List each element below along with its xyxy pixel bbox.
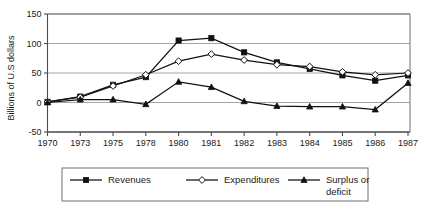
x-tick-label: 1987 bbox=[398, 138, 418, 148]
series-0-point-4-marker-square bbox=[176, 38, 181, 43]
x-tick-label: 1982 bbox=[234, 138, 254, 148]
x-tick-label: 1975 bbox=[103, 138, 123, 148]
y-axis-title: Billions of U.S dollars bbox=[6, 35, 16, 121]
y-tick-label: -50 bbox=[28, 127, 41, 137]
legend-label: Surplus or bbox=[326, 174, 369, 185]
y-tick-label: 100 bbox=[26, 39, 41, 49]
legend-label: Revenues bbox=[108, 174, 151, 185]
x-tick-label: 1981 bbox=[201, 138, 221, 148]
x-tick-label: 1983 bbox=[267, 138, 287, 148]
x-tick-label: 1970 bbox=[37, 138, 57, 148]
legend-label: Expenditures bbox=[224, 174, 280, 185]
x-tick-label: 1985 bbox=[332, 138, 352, 148]
chart-container: Billions of U.S dollars -50050100150 197… bbox=[0, 0, 430, 209]
legend-0-marker-square bbox=[83, 177, 88, 182]
y-tick-label: 0 bbox=[36, 98, 41, 108]
y-tick-label: 50 bbox=[31, 68, 41, 78]
series-0-point-6-marker-square bbox=[242, 50, 247, 55]
y-tick-label: 150 bbox=[26, 9, 41, 19]
x-tick-label: 1978 bbox=[136, 138, 156, 148]
series-0-point-5-marker-square bbox=[209, 36, 214, 41]
line-chart: Billions of U.S dollars -50050100150 197… bbox=[0, 0, 430, 209]
x-tick-label: 1973 bbox=[70, 138, 90, 148]
legend-label-line2: deficit bbox=[326, 186, 351, 197]
chart-legend: RevenuesExpendituresSurplus ordeficit bbox=[62, 168, 369, 201]
x-tick-label: 1984 bbox=[300, 138, 320, 148]
x-tick-label: 1986 bbox=[365, 138, 385, 148]
x-tick-label: 1980 bbox=[169, 138, 189, 148]
